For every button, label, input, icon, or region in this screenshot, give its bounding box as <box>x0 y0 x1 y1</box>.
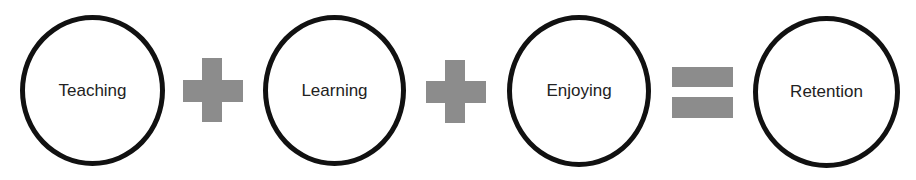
node-label: Retention <box>790 82 863 102</box>
node-learning: Learning <box>263 15 406 166</box>
node-teaching: Teaching <box>20 15 165 166</box>
node-label: Learning <box>301 81 367 101</box>
node-enjoying: Enjoying <box>507 15 651 167</box>
node-label: Teaching <box>58 81 126 101</box>
node-retention: Retention <box>753 16 900 168</box>
node-label: Enjoying <box>546 81 611 101</box>
